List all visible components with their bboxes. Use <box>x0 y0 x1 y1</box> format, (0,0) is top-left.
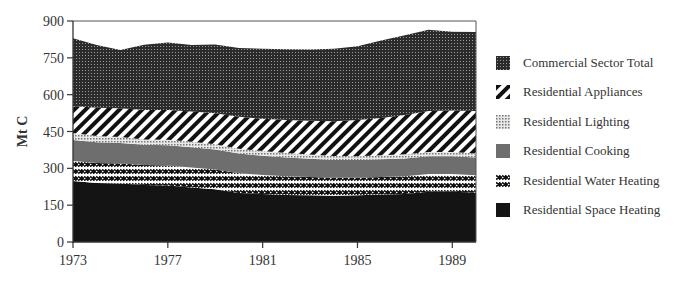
legend-item-residential-space-heating: Residential Space Heating <box>496 196 674 226</box>
x-tick-label: 1989 <box>438 253 466 268</box>
x-tick-label: 1981 <box>249 253 277 268</box>
zigzag-swatch-icon <box>496 174 510 188</box>
y-axis-label: Mt C <box>15 116 30 148</box>
legend: Commercial Sector Total Residential Appl… <box>496 48 674 225</box>
y-tick-label: 600 <box>43 88 64 103</box>
y-tick-label: 300 <box>43 161 64 176</box>
diagonal-stripes-swatch-icon <box>496 85 510 99</box>
legend-item-residential-lighting: Residential Lighting <box>496 107 674 137</box>
plot-area <box>73 30 476 242</box>
y-tick-label: 450 <box>43 125 64 140</box>
x-tick-label: 1977 <box>154 253 182 268</box>
legend-label: Residential Appliances <box>523 84 643 100</box>
legend-label: Residential Lighting <box>523 114 630 130</box>
legend-label: Residential Cooking <box>523 143 630 159</box>
legend-label: Commercial Sector Total <box>523 55 653 71</box>
dense-dots-swatch-icon <box>496 56 510 70</box>
solid-black-swatch-icon <box>496 203 510 217</box>
legend-item-residential-water-heating: Residential Water Heating <box>496 166 674 196</box>
legend-label: Residential Water Heating <box>523 173 660 189</box>
x-tick-label: 1985 <box>343 253 371 268</box>
legend-item-residential-cooking: Residential Cooking <box>496 137 674 167</box>
y-tick-label: 150 <box>43 198 64 213</box>
legend-item-commercial-sector-total: Commercial Sector Total <box>496 48 674 78</box>
legend-label: Residential Space Heating <box>523 202 660 218</box>
solid-gray-swatch-icon <box>496 144 510 158</box>
y-tick-label: 0 <box>57 235 64 250</box>
area-commercial-sector-total <box>73 30 476 121</box>
fine-dots-swatch-icon <box>496 115 510 129</box>
x-tick-label: 1973 <box>59 253 87 268</box>
y-tick-label: 900 <box>43 14 64 29</box>
y-tick-label: 750 <box>43 51 64 66</box>
legend-item-residential-appliances: Residential Appliances <box>496 78 674 108</box>
